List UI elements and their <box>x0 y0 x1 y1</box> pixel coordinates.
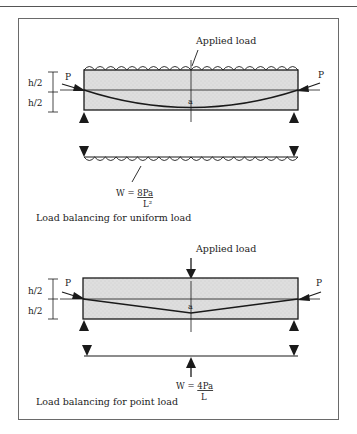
sag-label: a <box>188 97 193 106</box>
formula-point: W = 4Pa <box>176 381 213 391</box>
equivalent-load-leader <box>132 166 141 182</box>
half-depth-bottom-label-2: h/2 <box>28 306 43 316</box>
prestress-left-label: P <box>65 72 71 82</box>
half-depth-bottom-label: h/2 <box>28 98 43 108</box>
panel-point-load: Applied load a h/2 h/2 P P <box>28 243 322 407</box>
support-right-icon <box>289 112 299 123</box>
uniform-load-wave-bottom <box>84 157 298 161</box>
caption-point: Load balancing for point load <box>36 396 178 407</box>
prestress-right-label: P <box>318 70 324 80</box>
load-balancing-diagram: Applied load a h/2 h/2 P P <box>0 0 357 434</box>
panel-uniform-load: Applied load a h/2 h/2 P P <box>28 35 324 223</box>
half-depth-top-label-2: h/2 <box>28 286 43 296</box>
reaction-left-icon-2 <box>82 345 92 356</box>
prestress-left-label-2: P <box>65 278 71 288</box>
formula-denominator: L² <box>143 199 152 209</box>
half-depth-top-label: h/2 <box>28 78 43 88</box>
applied-load-leader <box>192 50 198 66</box>
formula-numerator-2: 4Pa <box>197 381 213 391</box>
support-left-icon-2 <box>79 320 89 331</box>
formula-prefix-2: W = <box>176 381 197 391</box>
prestress-right-arrow-icon-2 <box>297 294 310 301</box>
formula-numerator: 8Pa <box>137 188 153 198</box>
formula-denominator-2: L <box>201 392 207 402</box>
formula-uniform: W = 8Pa <box>116 188 153 198</box>
formula-prefix: W = <box>116 188 137 198</box>
applied-load-label-2: Applied load <box>195 243 256 254</box>
prestress-right-label-2: P <box>316 278 322 288</box>
support-left-icon <box>79 112 89 123</box>
reaction-left-icon <box>79 146 89 157</box>
applied-load-label: Applied load <box>195 35 256 46</box>
reaction-right-icon <box>289 146 299 157</box>
sag-label-2: a <box>188 302 193 311</box>
support-right-icon-2 <box>289 320 299 331</box>
caption-uniform: Load balancing for uniform load <box>36 212 191 223</box>
reaction-right-icon-2 <box>289 345 299 356</box>
